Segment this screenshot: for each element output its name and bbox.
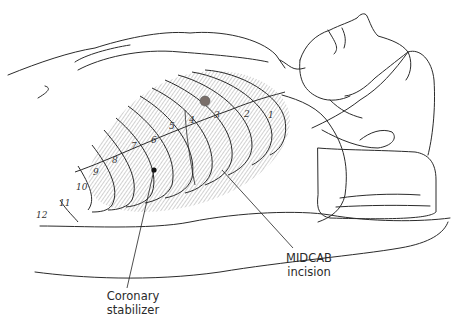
- svg-text:2: 2: [243, 109, 250, 119]
- midcab-incision-label: MIDCAB incision: [278, 251, 340, 279]
- svg-text:3: 3: [214, 110, 220, 120]
- rib-cage: [60, 70, 290, 222]
- svg-text:1: 1: [268, 110, 274, 120]
- midcab-illustration: 1 2 3 4 5 6 7 8 9 10 11 12: [0, 0, 454, 321]
- stabilizer-label-line2: stabilizer: [100, 303, 166, 317]
- midcab-label-line2: incision: [278, 265, 340, 279]
- svg-text:12: 12: [36, 210, 48, 220]
- midcab-incision-marker: [200, 96, 210, 106]
- midcab-leader-line: [222, 170, 293, 248]
- svg-text:8: 8: [112, 155, 118, 165]
- midcab-label-line1: MIDCAB: [278, 251, 340, 265]
- svg-text:10: 10: [76, 182, 88, 192]
- stabilizer-label-line1: Coronary: [100, 289, 166, 303]
- svg-text:5: 5: [169, 121, 175, 131]
- svg-text:9: 9: [93, 167, 99, 177]
- svg-text:11: 11: [59, 198, 70, 208]
- svg-text:6: 6: [151, 135, 157, 145]
- svg-text:4: 4: [188, 115, 195, 125]
- coronary-stabilizer-label: Coronary stabilizer: [100, 289, 166, 317]
- head: [300, 14, 436, 219]
- svg-text:7: 7: [131, 141, 137, 151]
